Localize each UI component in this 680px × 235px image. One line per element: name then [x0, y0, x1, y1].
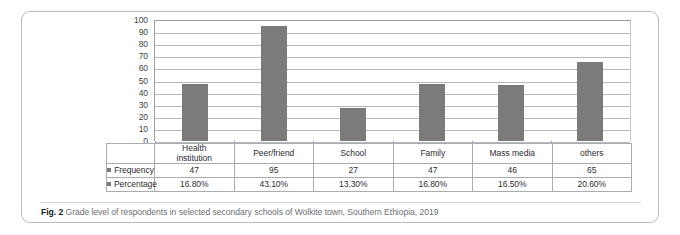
table-row-percentage: Percentage 16.80%43.10%13.30%16.80%16.50…	[107, 178, 632, 192]
bar-cell	[551, 21, 630, 141]
bar-others	[577, 62, 603, 141]
plot-area	[154, 20, 631, 141]
table-cell-percentage: 43.10%	[234, 178, 314, 192]
bar-cell	[155, 21, 234, 141]
bar-cell	[472, 21, 551, 141]
bar-health-institution	[182, 84, 208, 141]
bar-cell	[234, 21, 313, 141]
data-table: HealthinstitutionPeer/friendSchoolFamily…	[106, 143, 632, 192]
table-cell-percentage: 16.80%	[155, 178, 235, 192]
category-label-line1: others	[553, 149, 632, 159]
row-label-frequency: Frequency	[107, 164, 155, 178]
y-axis-tick-label: 70	[106, 52, 148, 60]
chart-with-data-table: 1009080706050403020100 Healthinstitution…	[106, 19, 646, 197]
table-cell-category: others	[552, 144, 632, 164]
y-axis-tick-label: 30	[106, 101, 148, 109]
y-axis-tick-label: 80	[106, 40, 148, 48]
table-cell-category: Mass media	[473, 144, 553, 164]
legend-square-frequency-icon	[107, 168, 111, 172]
row-label-percentage: Percentage	[107, 178, 155, 192]
y-axis-tick-label: 60	[106, 64, 148, 72]
table-cell-category: School	[314, 144, 394, 164]
table-cell-percentage: 13.30%	[314, 178, 394, 192]
figure-caption-text: Grade level of respondents in selected s…	[66, 207, 439, 217]
bar-series-frequency	[155, 21, 630, 141]
figure-card: 1009080706050403020100 Healthinstitution…	[21, 11, 659, 223]
bar-mass-media	[498, 85, 524, 141]
table-cell-frequency: 47	[155, 164, 235, 178]
bar-cell	[313, 21, 392, 141]
category-label-line1: School	[314, 149, 393, 159]
table-corner-blank	[107, 144, 155, 164]
table-cell-frequency: 65	[552, 164, 632, 178]
category-label-line2: institution	[155, 154, 234, 164]
bar-peer-friend	[261, 26, 287, 141]
category-label-line1: Mass media	[473, 149, 552, 159]
figure-caption: Fig. 2 Grade level of respondents in sel…	[41, 207, 646, 218]
table-cell-percentage: 16.80%	[393, 178, 473, 192]
category-label-line1: Peer/friend	[235, 149, 314, 159]
figure-number: Fig. 2	[41, 207, 63, 217]
y-axis-tick-label: 50	[106, 77, 148, 85]
bar-family	[419, 84, 445, 141]
table-cell-frequency: 47	[393, 164, 473, 178]
y-axis-tick-label: 10	[106, 125, 148, 133]
table-cell-frequency: 95	[234, 164, 314, 178]
caption-divider	[41, 202, 641, 203]
legend-square-percentage-icon	[107, 182, 111, 186]
table-row-frequency: Frequency 479527474665	[107, 164, 632, 178]
table-cell-category: Peer/friend	[234, 144, 314, 164]
table-cell-percentage: 16.50%	[473, 178, 553, 192]
y-axis: 1009080706050403020100	[106, 19, 151, 142]
table-cell-frequency: 46	[473, 164, 553, 178]
table-row-categories: HealthinstitutionPeer/friendSchoolFamily…	[107, 144, 632, 164]
table-cell-category: Healthinstitution	[155, 144, 235, 164]
bar-school	[340, 108, 366, 141]
table-cell-category: Family	[393, 144, 473, 164]
table-cell-percentage: 20.60%	[552, 178, 632, 192]
row-label-percentage-text: Percentage	[114, 179, 157, 189]
table-cell-frequency: 27	[314, 164, 394, 178]
y-axis-tick-label: 40	[106, 89, 148, 97]
row-label-frequency-text: Frequency	[114, 165, 154, 175]
y-axis-tick-label: 20	[106, 113, 148, 121]
bar-cell	[393, 21, 472, 141]
y-axis-tick-label: 100	[106, 16, 148, 24]
category-label-line1: Family	[394, 149, 473, 159]
y-axis-tick-label: 90	[106, 28, 148, 36]
